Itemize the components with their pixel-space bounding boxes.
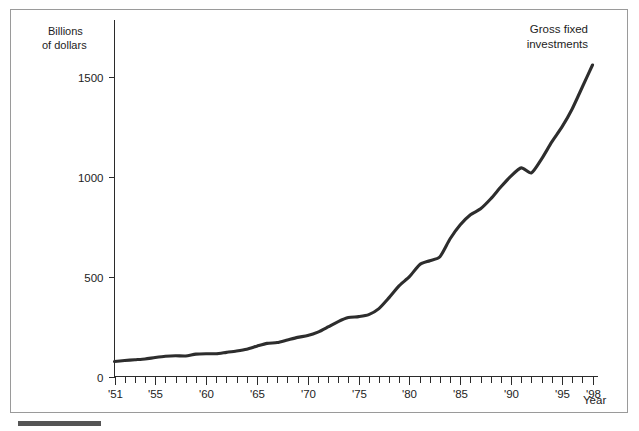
series-annotation-line2: investments bbox=[527, 38, 589, 50]
x-tick-label-1980: '80 bbox=[402, 388, 417, 400]
x-tick-marks bbox=[116, 377, 594, 385]
y-tick-label-500: 500 bbox=[84, 272, 103, 284]
line-chart-canvas: 050010001500 '51'55'60'65'70'75'80'85'90… bbox=[0, 0, 639, 431]
y-tick-label-1500: 1500 bbox=[78, 72, 104, 84]
x-tick-label-1970: '70 bbox=[301, 388, 316, 400]
y-tick-marks bbox=[109, 78, 115, 378]
x-axis-title: Year bbox=[583, 394, 606, 406]
y-tick-label-1000: 1000 bbox=[78, 172, 104, 184]
y-tick-label-0: 0 bbox=[97, 372, 103, 384]
x-tick-label-1995: '95 bbox=[555, 388, 570, 400]
chart-figure: 050010001500 '51'55'60'65'70'75'80'85'90… bbox=[0, 0, 639, 431]
x-axis-group: '51'55'60'65'70'75'80'85'90'95'98 bbox=[108, 377, 601, 400]
x-tick-label-1960: '60 bbox=[199, 388, 214, 400]
x-tick-label-1990: '90 bbox=[504, 388, 519, 400]
bottom-caption-rule bbox=[18, 421, 101, 426]
gross-fixed-investments-line bbox=[115, 65, 593, 362]
x-tick-label-1985: '85 bbox=[453, 388, 468, 400]
y-tick-labels: 050010001500 bbox=[78, 72, 104, 384]
y-axis-group: 050010001500 bbox=[78, 20, 115, 384]
y-axis-title-line1: Billions bbox=[48, 25, 83, 37]
x-tick-label-1965: '65 bbox=[250, 388, 265, 400]
x-tick-label-1975: '75 bbox=[352, 388, 367, 400]
x-tick-label-1955: '55 bbox=[148, 388, 163, 400]
y-axis-title-line2: of dollars bbox=[42, 39, 87, 51]
x-tick-labels: '51'55'60'65'70'75'80'85'90'95'98 bbox=[108, 388, 601, 400]
x-tick-label-1951: '51 bbox=[108, 388, 123, 400]
series-annotation-line1: Gross fixed bbox=[530, 23, 588, 35]
